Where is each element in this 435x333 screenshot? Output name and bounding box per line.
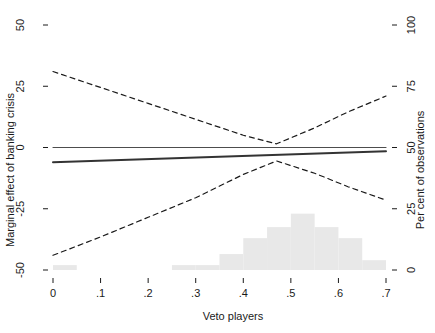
x-tick-label: 0: [50, 287, 56, 299]
y-tick-label-right: 0: [405, 267, 417, 273]
x-axis: 0.1.2.3.4.5.6.7: [50, 278, 391, 299]
x-tick-label: .5: [286, 287, 295, 299]
series-upper-confidence-bound: [53, 72, 386, 144]
y-axis-title-right: Per cent of observations: [414, 110, 426, 229]
series-marginal-effect-estimate: [53, 151, 386, 162]
x-tick-label: .4: [239, 287, 248, 299]
histogram-bar: [362, 260, 386, 270]
y-axis-title-left: Marginal effect of banking crisis: [4, 93, 16, 247]
chart-canvas: 0.1.2.3.4.5.6.7 -50-2502550 0255075100 V…: [0, 0, 435, 333]
x-tick-label: .1: [96, 287, 105, 299]
y-axis-left: -50-2502550: [14, 19, 48, 278]
histogram-bar: [315, 227, 339, 270]
histogram-bar: [267, 227, 291, 270]
y-tick-label-right: 100: [405, 16, 417, 34]
y-tick-label-right: 75: [405, 80, 417, 92]
x-tick-label: .3: [191, 287, 200, 299]
histogram-bar: [291, 214, 315, 270]
x-axis-title: Veto players: [203, 310, 264, 322]
histogram-bars: [53, 214, 386, 270]
histogram-bar: [338, 238, 362, 270]
histogram-bar: [220, 254, 244, 270]
histogram-bar: [172, 265, 196, 270]
x-tick-label: .6: [334, 287, 343, 299]
chart-figure: 0.1.2.3.4.5.6.7 -50-2502550 0255075100 V…: [0, 0, 435, 333]
y-tick-label-left: 25: [14, 80, 26, 92]
histogram-bar: [196, 265, 220, 270]
y-tick-label-left: 50: [14, 19, 26, 31]
histogram-bar: [243, 238, 267, 270]
x-tick-label: .2: [144, 287, 153, 299]
histogram-bar: [53, 265, 77, 270]
y-tick-label-left: -50: [14, 262, 26, 278]
x-tick-label: .7: [381, 287, 390, 299]
